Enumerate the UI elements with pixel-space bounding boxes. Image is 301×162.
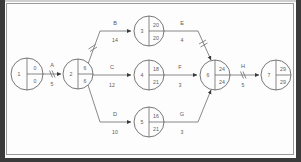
edge-d-label: D bbox=[113, 111, 117, 117]
edge-e-duration: 4 bbox=[181, 37, 184, 43]
node-3-early: 20 bbox=[153, 22, 159, 28]
node-5[interactable]: 5 16 21 bbox=[134, 107, 164, 137]
node-7-early: 29 bbox=[280, 66, 286, 72]
node-6-late: 24 bbox=[219, 79, 225, 85]
node-4[interactable]: 4 18 21 bbox=[134, 60, 164, 90]
node-2-early: 6 bbox=[84, 65, 87, 71]
edge-c: C 12 bbox=[93, 64, 131, 88]
network-diagram-canvas: A 5 B 14 C 12 D 10 E 4 bbox=[0, 0, 301, 162]
edge-a: A 5 bbox=[43, 62, 61, 87]
node-1-id: 1 bbox=[18, 71, 21, 77]
node-1-late: 0 bbox=[34, 78, 37, 84]
edge-h-duration: 5 bbox=[242, 82, 245, 88]
edge-c-duration: 12 bbox=[109, 82, 115, 88]
node-6-id: 6 bbox=[207, 72, 210, 78]
edge-c-label: C bbox=[110, 64, 114, 70]
edge-g: G 3 bbox=[164, 90, 211, 135]
edge-f-duration: 3 bbox=[179, 82, 182, 88]
edge-b-label: B bbox=[113, 20, 117, 26]
network-diagram-page: A 5 B 14 C 12 D 10 E 4 bbox=[0, 0, 301, 162]
node-6-early: 24 bbox=[219, 66, 225, 72]
node-3-late: 20 bbox=[153, 35, 159, 41]
edge-f-label: F bbox=[178, 64, 182, 70]
edge-g-label: G bbox=[180, 111, 184, 117]
node-1-early: 0 bbox=[34, 65, 37, 71]
edge-g-duration: 3 bbox=[181, 129, 184, 135]
node-3-id: 3 bbox=[141, 28, 144, 34]
edge-a-duration: 5 bbox=[51, 81, 54, 87]
node-5-late: 21 bbox=[153, 126, 159, 132]
edge-d: D 10 bbox=[88, 85, 131, 135]
edge-h: H 5 bbox=[230, 63, 259, 88]
node-4-early: 18 bbox=[153, 66, 159, 72]
edge-e-label: E bbox=[180, 20, 184, 26]
node-7[interactable]: 7 29 29 bbox=[261, 60, 291, 90]
node-1[interactable]: 1 0 0 bbox=[11, 58, 43, 90]
edge-b: B 14 bbox=[88, 20, 131, 64]
edge-b-duration: 14 bbox=[112, 37, 118, 43]
edge-f: F 3 bbox=[164, 64, 197, 88]
edge-e: E 4 bbox=[164, 20, 211, 60]
node-4-late: 21 bbox=[153, 79, 159, 85]
node-4-id: 4 bbox=[141, 72, 144, 78]
node-5-early: 16 bbox=[153, 113, 159, 119]
node-2-id: 2 bbox=[70, 71, 73, 77]
node-6[interactable]: 6 24 24 bbox=[200, 60, 230, 90]
node-2-late: 6 bbox=[84, 78, 87, 84]
node-7-id: 7 bbox=[268, 72, 271, 78]
edge-h-label: H bbox=[241, 63, 245, 69]
edge-d-duration: 10 bbox=[112, 129, 118, 135]
edge-a-label: A bbox=[50, 62, 54, 68]
node-7-late: 29 bbox=[280, 79, 286, 85]
node-2[interactable]: 2 6 6 bbox=[63, 59, 93, 89]
node-3[interactable]: 3 20 20 bbox=[134, 16, 164, 46]
node-5-id: 5 bbox=[141, 119, 144, 125]
